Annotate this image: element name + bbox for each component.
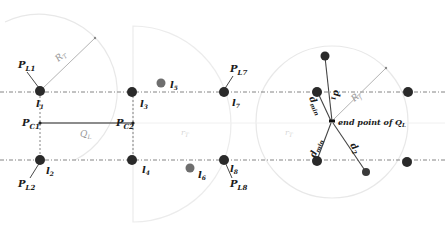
landmark-right-ur [403,87,413,97]
label-pl7: PL7 [229,63,247,77]
label-d1: d1 [330,90,342,101]
label-l2: l2 [46,165,54,177]
label-pl1: PL1 [17,59,35,73]
landmark-l6 [186,164,195,173]
landmark-right-bottom [362,168,370,176]
label-l8: l8 [230,163,239,175]
label-d2: d2 [347,141,362,156]
landmark-l4 [127,155,137,165]
label-pc2: PC2 [115,117,134,131]
landmark-l5 [157,79,166,88]
rt-arrow [42,38,95,89]
label-l3: l3 [140,98,148,110]
label-pl2: PL2 [17,178,35,192]
rf-arrow-head [385,67,387,69]
landmark-right-top [321,52,330,61]
label-pc1: PC1 [21,117,40,131]
rt-arrow-head [94,37,96,39]
landmark-right-lr [402,157,412,167]
landmark-l7 [219,87,229,97]
label-l5: l5 [170,79,178,91]
landmark-l8 [219,155,229,165]
label-l1: l1 [36,98,44,110]
landmark-l1 [35,86,45,96]
label-l4: l4 [142,164,150,176]
landmark-l2 [35,155,45,165]
label-ql: QL [80,129,91,140]
label-rt-right: rT [285,128,294,138]
endpoint-marker [329,120,335,123]
landmark-l3 [127,87,137,97]
label-endpoint: end point of QL [338,117,406,128]
pl1-pointer [27,72,39,88]
middle-range-semicircle [133,26,231,222]
label-l7: l7 [232,97,241,109]
label-pl8: PL8 [229,178,247,192]
label-dmin-upper: dmin [306,95,324,117]
left-range-arc [5,14,117,160]
label-rt-mid: rT [181,128,190,138]
label-rt: RT [52,48,69,65]
label-l6: l6 [198,169,207,181]
trajectory-landmark-diagram: PL1 PL2 PL7 PL8 PC1 PC2 RT Rf QL rT rT l… [0,0,445,240]
label-dmin-lower: dmin [308,137,325,159]
diagram-svg: PL1 PL2 PL7 PL8 PC1 PC2 RT Rf QL rT rT l… [0,0,445,240]
